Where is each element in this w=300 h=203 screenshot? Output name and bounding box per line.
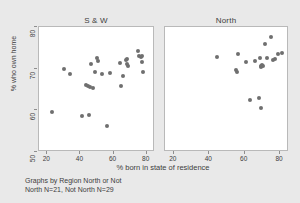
data-point (105, 124, 109, 128)
x-tick-mark (279, 151, 280, 154)
x-tick-label: 40 (201, 155, 215, 162)
data-point (269, 35, 273, 39)
x-tick-label: 20 (166, 155, 180, 162)
x-axis-title: % born in state of residence (38, 163, 288, 172)
panel-title-north: North (164, 16, 288, 25)
x-tick-label: 60 (106, 155, 120, 162)
figure-root: S & W North % who own home % born in sta… (0, 0, 300, 203)
x-tick-mark (79, 151, 80, 154)
data-point (257, 96, 261, 100)
data-point (108, 71, 112, 75)
scatter-plot-canvas: S & W North % who own home % born in sta… (0, 0, 300, 203)
data-point (280, 51, 284, 55)
x-tick-mark (113, 151, 114, 154)
y-tick-label: 50 (29, 151, 36, 167)
x-tick-label: 20 (39, 155, 53, 162)
x-tick-mark (46, 151, 47, 154)
data-point (235, 70, 239, 74)
x-tick-mark (146, 151, 147, 154)
y-tick-label: 60 (29, 109, 36, 125)
data-point (121, 74, 125, 78)
data-point (91, 86, 95, 90)
data-point (119, 84, 123, 88)
data-point (236, 52, 240, 56)
note-line-2: North N=21, Not North N=29 (25, 185, 122, 194)
data-point (215, 55, 219, 59)
data-point (62, 67, 66, 71)
data-point (140, 60, 144, 64)
panel-title-sw: S & W (38, 16, 154, 25)
x-tick-mark (173, 151, 174, 154)
y-axis-title: % who own home (10, 19, 17, 109)
data-point (50, 110, 54, 114)
y-tick-label: 70 (29, 67, 36, 83)
note-line-1: Graphs by Region North or Not (25, 176, 122, 185)
y-tick-label: 80 (29, 26, 36, 42)
x-tick-mark (244, 151, 245, 154)
data-point (265, 56, 269, 60)
data-point (125, 57, 129, 61)
figure-note: Graphs by Region North or Not North N=21… (25, 176, 122, 194)
x-tick-label: 40 (72, 155, 86, 162)
data-point (118, 61, 122, 65)
data-point (258, 56, 262, 60)
x-tick-label: 80 (139, 155, 153, 162)
x-tick-label: 60 (237, 155, 251, 162)
data-point (96, 59, 100, 63)
panel-sw (38, 26, 154, 151)
x-tick-label: 80 (272, 155, 286, 162)
data-point (273, 57, 277, 61)
x-tick-mark (208, 151, 209, 154)
panel-north (164, 26, 288, 151)
data-point (87, 113, 91, 117)
